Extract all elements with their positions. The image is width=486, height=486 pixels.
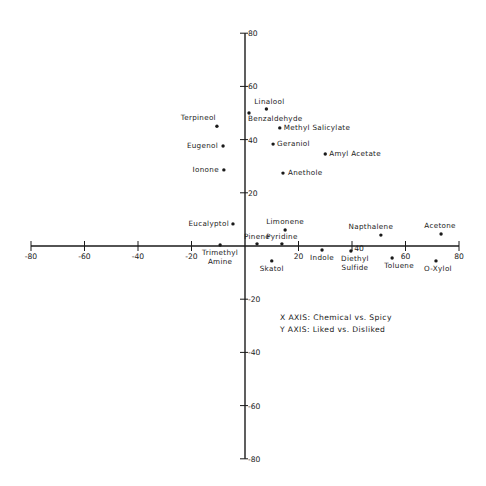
point-marker: [270, 259, 273, 262]
x-tick-label: 80: [454, 252, 464, 261]
axes: -80-60-40-202040608080604020-20-40-60-80: [25, 29, 464, 464]
point-marker: [439, 232, 442, 235]
point-label: Acetone: [424, 221, 456, 230]
point-label: Indole: [310, 253, 334, 262]
y-tick-label: 40: [248, 136, 258, 145]
point-label: TrimethylAmine: [201, 248, 238, 266]
point-marker: [280, 242, 283, 245]
point-label: Skatol: [260, 264, 284, 273]
y-tick-label: -80: [248, 455, 261, 464]
point-methyl-salicylate: Methyl Salicylate: [278, 123, 350, 132]
point-label: Amyl Acetate: [329, 149, 381, 158]
point-marker: [379, 233, 382, 236]
point-amyl-acetate: Amyl Acetate: [324, 149, 382, 158]
point-label: Terpineol: [180, 113, 216, 122]
point-linalool: Linalool: [254, 97, 284, 111]
point-label: Pyridine: [266, 232, 298, 241]
y-tick-label: -40: [248, 348, 261, 357]
point-limonene: Limonene: [266, 217, 304, 232]
point-ionone: Ionone: [193, 165, 226, 174]
point-marker: [349, 249, 352, 252]
point-marker: [231, 222, 234, 225]
y-tick-label: 20: [248, 189, 258, 198]
point-marker: [222, 168, 225, 171]
y-tick-label: 60: [248, 82, 258, 91]
point-label: Ionone: [193, 165, 220, 174]
point-label: Eugenol: [187, 141, 218, 150]
point-acetone: Acetone: [424, 221, 456, 236]
point-marker: [390, 256, 393, 259]
x-tick-label: -20: [185, 252, 198, 261]
axis-legend: X AXIS: Chemical vs. Spicy Y AXIS: Liked…: [280, 312, 392, 336]
point-label: Limonene: [266, 217, 304, 226]
point-label: DiethylSulfide: [341, 254, 369, 272]
point-marker: [255, 242, 258, 245]
point-eucalyptol: Eucalyptol: [188, 219, 234, 228]
point-anethole: Anethole: [281, 168, 322, 177]
point-marker: [265, 107, 268, 110]
point-benzaldehyde: Benzaldehyde: [247, 111, 302, 123]
point-terpineol: Terpineol: [180, 113, 219, 128]
point-marker: [320, 248, 323, 251]
scatter-plot: -80-60-40-202040608080604020-20-40-60-80…: [0, 0, 486, 486]
x-tick-label: 20: [294, 252, 304, 261]
point-label: Geraniol: [277, 139, 310, 148]
point-label: Toluene: [383, 261, 414, 270]
x-tick-label: 60: [401, 252, 411, 261]
point-geraniol: Geraniol: [271, 139, 309, 148]
y-tick-label: -20: [248, 295, 261, 304]
point-marker: [271, 142, 274, 145]
point-label: O-Xylol: [424, 264, 452, 273]
x-tick-label: -80: [25, 252, 38, 261]
point-label: Linalool: [254, 97, 284, 106]
y-tick-label: -60: [248, 402, 261, 411]
point-label: Benzaldehyde: [248, 114, 303, 123]
point-marker: [221, 144, 224, 147]
point-napthalene: Napthalene: [349, 222, 394, 237]
point-marker: [434, 259, 437, 262]
point-marker: [324, 152, 327, 155]
point-label: Eucalyptol: [188, 219, 228, 228]
y-axis-legend: Y AXIS: Liked vs. Disliked: [280, 324, 392, 336]
x-axis-legend: X AXIS: Chemical vs. Spicy: [280, 312, 392, 324]
point-marker: [215, 125, 218, 128]
point-pyridine: Pyridine: [266, 232, 298, 246]
point-marker: [218, 243, 221, 246]
point-marker: [281, 171, 284, 174]
point-eugenol: Eugenol: [187, 141, 225, 150]
point-o-xylol: O-Xylol: [424, 259, 452, 273]
point-label: Anethole: [288, 168, 323, 177]
point-indole: Indole: [310, 248, 334, 262]
point-label: Napthalene: [349, 222, 394, 231]
point-label: Methyl Salicylate: [284, 123, 351, 132]
y-tick-label: 80: [248, 29, 258, 38]
x-tick-label: 40: [354, 244, 364, 253]
point-marker: [278, 126, 281, 129]
x-tick-label: -40: [132, 252, 145, 261]
point-skatol: Skatol: [260, 259, 284, 273]
x-tick-label: -60: [78, 252, 91, 261]
